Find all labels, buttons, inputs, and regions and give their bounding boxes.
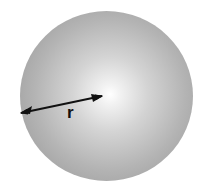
radius-arrow-icon <box>0 0 207 191</box>
radius-label: r <box>67 104 74 121</box>
sphere-diagram: r <box>0 0 207 191</box>
